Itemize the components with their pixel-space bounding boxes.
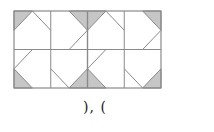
shaded-corner-triangle	[88, 11, 106, 30]
shaded-corner-triangle	[69, 69, 87, 88]
diagonal-line	[88, 50, 106, 69]
shaded-corner-triangle	[14, 69, 32, 88]
shaded-corner-triangle	[143, 69, 161, 88]
diagonal-line	[51, 69, 69, 88]
grid-lines	[14, 11, 161, 88]
diagonal-line	[106, 11, 124, 30]
shaded-corner-triangle	[88, 69, 106, 88]
diagonal-line	[14, 50, 32, 69]
diagonal-line	[143, 30, 161, 49]
shaded-corner-triangle	[14, 11, 32, 30]
diagonal-line	[69, 30, 87, 49]
shaded-corner-triangle	[69, 11, 87, 30]
diagonal-line	[32, 11, 50, 30]
shaded-corner-triangle	[143, 11, 161, 30]
diagonal-line	[124, 69, 142, 88]
answer-blanks-caption: ), (	[0, 99, 190, 115]
